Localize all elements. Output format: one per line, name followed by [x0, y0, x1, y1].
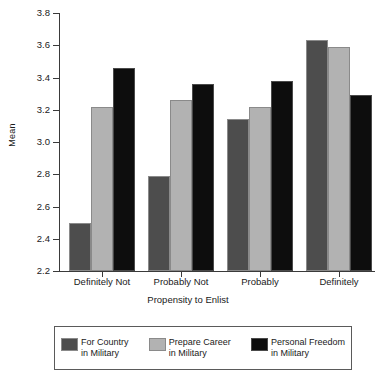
x-axis-tick-label: Definitely Not — [74, 276, 131, 287]
bar-2-1 — [249, 107, 271, 271]
y-axis-title: Mean — [7, 105, 17, 165]
bar-3-0 — [306, 40, 328, 271]
legend-label-line2: in Military — [81, 348, 129, 359]
legend-label: Prepare Careerin Military — [169, 337, 231, 359]
y-axis-tick-label: 3.8 — [22, 8, 50, 18]
y-axis-tick — [53, 271, 60, 272]
x-axis-tick-label: Probably — [241, 276, 279, 287]
legend-entry-2: Personal Freedomin Military — [251, 337, 345, 359]
y-axis-tick-label: 2.4 — [22, 234, 50, 244]
bar-1-1 — [170, 100, 192, 271]
bar-1-0 — [148, 176, 170, 271]
x-axis-tick-label: Probably Not — [154, 276, 209, 287]
bar-0-0 — [69, 223, 91, 271]
legend-swatch-icon — [251, 338, 268, 351]
bar-2-0 — [227, 119, 249, 271]
legend-entry-1: Prepare Careerin Military — [149, 337, 231, 359]
bar-0-1 — [91, 107, 113, 271]
y-axis-tick-label: 2.2 — [22, 266, 50, 276]
bar-3-2 — [350, 95, 372, 271]
y-axis-tick-label: 3.4 — [22, 73, 50, 83]
y-axis-tick-label: 2.8 — [22, 169, 50, 179]
x-axis-line — [59, 271, 375, 272]
y-axis-tick-label: 3.2 — [22, 105, 50, 115]
legend-label: Personal Freedomin Military — [271, 337, 345, 359]
legend-label-line2: in Military — [169, 348, 231, 359]
bar-1-2 — [192, 84, 214, 271]
y-axis-tick-label: 3.0 — [22, 137, 50, 147]
y-axis-tick-label: 2.6 — [22, 202, 50, 212]
bar-2-2 — [271, 81, 293, 271]
x-axis-tick-label: Definitely — [319, 276, 358, 287]
legend-label: For Countryin Military — [81, 337, 129, 359]
x-axis-title: Propensity to Enlist — [0, 294, 376, 305]
bar-chart-figure: Mean 3.83.63.43.23.02.82.62.42.2 Definit… — [0, 0, 376, 382]
legend-label-line1: Personal Freedom — [271, 337, 345, 348]
bar-3-1 — [328, 47, 350, 271]
legend-swatch-icon — [149, 338, 166, 351]
legend-label-line1: Prepare Career — [169, 337, 231, 348]
legend-label-line2: in Military — [271, 348, 345, 359]
bar-0-2 — [113, 68, 135, 271]
legend-label-line1: For Country — [81, 337, 129, 348]
legend-swatch-icon — [61, 338, 78, 351]
y-axis-tick-label: 3.6 — [22, 40, 50, 50]
chart-legend: For Countryin MilitaryPrepare Careerin M… — [54, 326, 352, 370]
plot-area — [59, 13, 374, 271]
legend-entry-0: For Countryin Military — [61, 337, 129, 359]
